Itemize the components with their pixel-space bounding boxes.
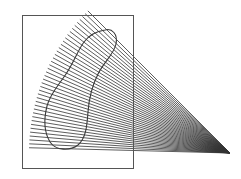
ray-line [46, 72, 230, 153]
ray-line [77, 22, 230, 153]
ray-line [61, 44, 230, 153]
ray-line [51, 61, 230, 153]
ray-line [68, 35, 230, 153]
ray-fan [29, 11, 230, 153]
diagram-canvas [0, 0, 241, 179]
projection-diagram [0, 0, 241, 179]
